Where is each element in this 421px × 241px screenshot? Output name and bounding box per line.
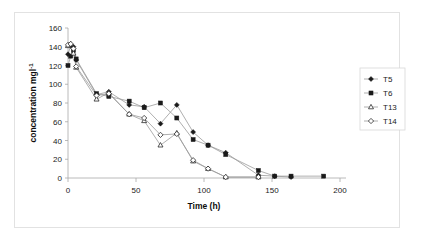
- data-point-t6: [191, 138, 195, 142]
- legend-label-t14: T14: [383, 117, 397, 126]
- series-line-t14: [68, 44, 258, 177]
- x-tick-label: 100: [197, 186, 211, 195]
- data-point-t6: [66, 63, 70, 67]
- data-point-t6: [256, 168, 260, 172]
- series-lines: [68, 44, 324, 177]
- x-axis-ticks: 050100150200: [66, 178, 347, 195]
- y-tick-label: 60: [53, 118, 62, 127]
- y-tick-label: 120: [49, 62, 63, 71]
- legend-label-t13: T13: [383, 103, 397, 112]
- series-markers: [65, 41, 325, 179]
- chart-legend: T5T6T13T14: [360, 68, 405, 130]
- legend-label-t5: T5: [383, 75, 393, 84]
- series-line-t5: [68, 46, 291, 177]
- x-tick-label: 200: [333, 186, 347, 195]
- x-tick-label: 0: [66, 186, 71, 195]
- y-tick-label: 20: [53, 155, 62, 164]
- data-point-t6: [322, 174, 326, 178]
- x-tick-label: 50: [132, 186, 141, 195]
- y-axis-title: concentration mgl-1: [28, 63, 38, 143]
- legend-label-t6: T6: [383, 89, 393, 98]
- legend-marker-t6-icon: [369, 91, 373, 95]
- y-tick-label: 80: [53, 99, 62, 108]
- y-tick-label: 100: [49, 80, 63, 89]
- y-tick-label: 140: [49, 43, 63, 52]
- series-line-t6: [68, 51, 324, 177]
- axes: [68, 28, 346, 178]
- x-axis-title: Time (h): [188, 201, 221, 211]
- y-tick-label: 40: [53, 137, 62, 146]
- data-point-t6: [158, 101, 162, 105]
- y-tick-label: 160: [49, 24, 63, 33]
- x-axis-title-text: Time (h): [188, 201, 221, 211]
- data-point-t6: [175, 116, 179, 120]
- chart-figure: 020406080100120140160 050100150200 conce…: [0, 0, 421, 241]
- plot-area: 020406080100120140160 050100150200 conce…: [0, 0, 421, 241]
- y-tick-label: 0: [58, 174, 63, 183]
- y-axis-title-text: concentration mgl-1: [28, 63, 38, 143]
- x-tick-label: 150: [265, 186, 279, 195]
- series-line-t13: [68, 44, 258, 177]
